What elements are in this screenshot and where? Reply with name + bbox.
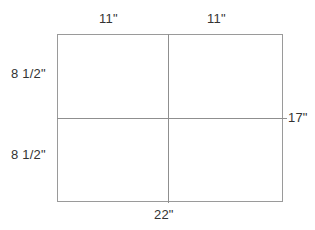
dimension-label-left-top: 8 1/2" bbox=[11, 66, 46, 81]
dimension-diagram: 11" 11" 8 1/2" 8 1/2" 22" 17" bbox=[0, 0, 315, 230]
dimension-label-top-right: 11" bbox=[207, 11, 226, 26]
dimension-label-left-bottom: 8 1/2" bbox=[11, 147, 46, 162]
dimension-label-top-left: 11" bbox=[99, 11, 118, 26]
horizontal-divider-line bbox=[57, 118, 287, 119]
dimension-label-bottom: 22" bbox=[154, 207, 174, 222]
dimension-label-right: 17" bbox=[288, 110, 308, 125]
